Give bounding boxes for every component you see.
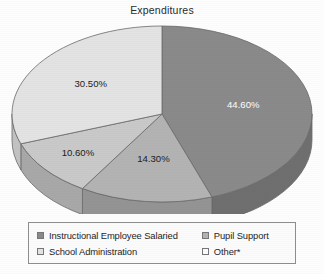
legend-item-school-administration[interactable]: School Administration xyxy=(37,246,202,257)
legend-label: Pupil Support xyxy=(214,230,269,241)
legend-row: Instructional Employee Salaried Pupil Su… xyxy=(37,227,289,243)
pie-slice-label: 10.60% xyxy=(62,147,95,158)
legend-item-instructional-employee-salaried[interactable]: Instructional Employee Salaried xyxy=(37,230,202,241)
chart-legend: Instructional Employee Salaried Pupil Su… xyxy=(28,222,296,264)
legend-label: Instructional Employee Salaried xyxy=(49,230,178,241)
pie-chart: 44.60%14.30%10.60%30.50% xyxy=(0,14,324,214)
legend-label: School Administration xyxy=(49,246,137,257)
pie-slice-label: 30.50% xyxy=(75,78,108,89)
pie-slices xyxy=(12,26,312,202)
pie-slice-label: 14.30% xyxy=(137,153,170,164)
legend-item-other[interactable]: Other* xyxy=(202,246,289,257)
legend-swatch-icon xyxy=(202,248,209,255)
legend-item-pupil-support[interactable]: Pupil Support xyxy=(202,230,289,241)
legend-swatch-icon xyxy=(37,248,44,255)
legend-swatch-icon xyxy=(37,232,44,239)
legend-label: Other* xyxy=(214,246,241,257)
legend-row: School Administration Other* xyxy=(37,243,289,259)
chart-page: Expenditures 44.60%14.30%10.60%30.50% In… xyxy=(0,0,324,274)
legend-swatch-icon xyxy=(202,232,209,239)
pie-chart-svg: 44.60%14.30%10.60%30.50% xyxy=(0,14,324,214)
pie-slice-label: 44.60% xyxy=(227,99,260,110)
